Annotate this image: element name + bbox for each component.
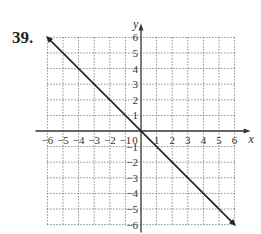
y-tick-label: 2 <box>133 94 139 106</box>
x-axis-label: x <box>248 132 255 146</box>
y-axis-arrow-icon <box>139 23 144 30</box>
y-tick-label: 1 <box>133 109 139 121</box>
y-tick-label: 5 <box>133 47 139 59</box>
y-tick-label: 6 <box>133 31 139 43</box>
y-tick-label: −6 <box>126 219 138 231</box>
y-tick-label: 4 <box>133 63 139 75</box>
coordinate-plane: xy−6−5−4−3−2−10123456−6−5−4−3−2−1123456 <box>0 0 261 234</box>
y-tick-label: −5 <box>126 203 138 215</box>
x-tick-label: 4 <box>201 134 207 146</box>
x-tick-label: −4 <box>73 134 85 146</box>
x-tick-label: −6 <box>42 134 54 146</box>
x-tick-label: 5 <box>216 134 222 146</box>
x-tick-label: −3 <box>88 134 100 146</box>
x-tick-label: 2 <box>169 134 175 146</box>
x-tick-label: −2 <box>104 134 116 146</box>
y-tick-label: −1 <box>126 141 138 153</box>
y-tick-label: −4 <box>126 187 138 199</box>
y-tick-label: −2 <box>126 156 138 168</box>
y-axis-label: y <box>132 17 139 31</box>
x-tick-label: −5 <box>57 134 69 146</box>
x-tick-label: 3 <box>185 134 191 146</box>
y-tick-label: 3 <box>133 78 139 90</box>
y-tick-label: −3 <box>126 172 138 184</box>
x-tick-label: 6 <box>232 134 238 146</box>
